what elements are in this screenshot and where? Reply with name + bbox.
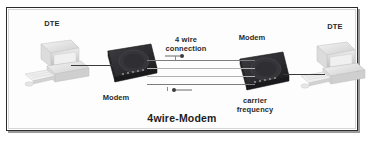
diagram-title: 4wire-Modem <box>7 112 357 124</box>
tick-lower <box>167 87 168 91</box>
direction-arrow-lower-icon <box>170 87 192 92</box>
dte-left-label: DTE <box>29 20 75 29</box>
dte-left-graphic <box>21 36 95 90</box>
connection-label: 4 wire connection <box>155 36 217 53</box>
tick-upper <box>175 56 176 60</box>
modem-left-label: Modem <box>93 94 139 103</box>
cable-dte-left-to-modem-left <box>71 65 113 66</box>
wire-line-2 <box>147 68 255 69</box>
wire-line-1 <box>147 60 255 61</box>
wire-line-3 <box>147 76 255 77</box>
diagram-page: DTE <box>0 0 371 142</box>
cable-modem-right-to-dte-right <box>283 74 325 75</box>
modem-right-label: Modem <box>229 34 275 43</box>
dte-right-label: DTE <box>312 23 358 32</box>
dte-right-graphic <box>295 38 369 92</box>
wire-line-4 <box>147 84 255 85</box>
diagram-frame: DTE <box>6 7 358 131</box>
